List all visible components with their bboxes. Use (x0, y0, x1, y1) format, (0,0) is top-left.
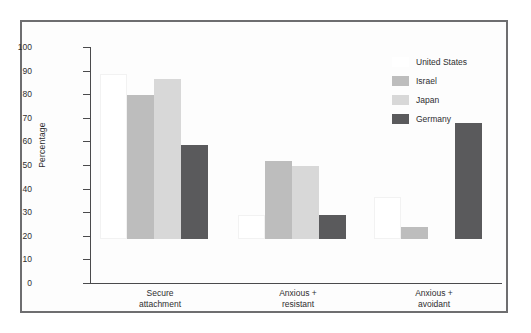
y-axis-line (90, 47, 91, 283)
y-axis-tick (83, 212, 90, 213)
category-label-line: attachment (85, 299, 235, 310)
bar (127, 95, 154, 239)
y-axis-tick-label: 20 (0, 232, 32, 241)
category-label-line: Anxious + (359, 288, 509, 299)
legend-label: Germany (416, 114, 451, 124)
legend-label: Israel (416, 76, 437, 86)
bar (154, 79, 181, 239)
y-axis-tick (83, 165, 90, 166)
y-axis-tick-label: 50 (0, 161, 32, 170)
legend-swatch (392, 114, 409, 124)
legend-item: Japan (392, 92, 507, 108)
legend-label: United States (416, 57, 467, 67)
bar (374, 197, 401, 239)
category-label-line: Anxious + (223, 288, 373, 299)
y-axis-tick-label: 90 (0, 67, 32, 76)
legend-label: Japan (416, 95, 439, 105)
x-axis-category-label: Secureattachment (85, 288, 235, 310)
bar (181, 145, 208, 239)
y-axis-tick-label: 60 (0, 137, 32, 146)
y-axis-tick-label: 100 (0, 43, 32, 52)
bar (319, 215, 346, 239)
y-axis-tick (83, 189, 90, 190)
legend-swatch (392, 95, 409, 105)
bar (401, 227, 428, 239)
y-axis-tick-label: 80 (0, 90, 32, 99)
legend-item: United States (392, 54, 507, 70)
y-axis-tick (83, 283, 90, 284)
x-axis-line (90, 283, 502, 284)
y-axis-tick-label: 40 (0, 185, 32, 194)
legend-swatch (392, 57, 409, 67)
y-axis-tick (83, 236, 90, 237)
bar (238, 215, 265, 239)
plot-area: 0102030405060708090100 Percentage Secure… (22, 22, 506, 311)
bar-group (100, 3, 220, 239)
chart-figure-frame: 0102030405060708090100 Percentage Secure… (20, 20, 508, 313)
y-axis-tick-label: 10 (0, 255, 32, 264)
y-axis-tick (83, 47, 90, 48)
bar (265, 161, 292, 239)
y-axis-tick (83, 71, 90, 72)
y-axis-tick-label: 70 (0, 114, 32, 123)
y-axis-tick (83, 141, 90, 142)
legend-swatch (392, 76, 409, 86)
y-axis-tick-label: 30 (0, 208, 32, 217)
y-axis-tick (83, 94, 90, 95)
x-axis-category-label: Anxious +resistant (223, 288, 373, 310)
y-axis-tick (83, 118, 90, 119)
bar (100, 74, 127, 239)
category-label-line: resistant (223, 299, 373, 310)
y-axis-tick (83, 259, 90, 260)
legend-item: Israel (392, 73, 507, 89)
category-label-line: avoidant (359, 299, 509, 310)
category-label-line: Secure (85, 288, 235, 299)
x-axis-category-label: Anxious +avoidant (359, 288, 509, 310)
y-axis-title: Percentage (37, 100, 47, 190)
y-axis-tick-label: 0 (0, 279, 32, 288)
chart-legend: United StatesIsraelJapanGermany (392, 54, 507, 130)
bar (455, 123, 482, 239)
legend-item: Germany (392, 111, 507, 127)
bar (292, 166, 319, 239)
bar-group (238, 3, 358, 239)
